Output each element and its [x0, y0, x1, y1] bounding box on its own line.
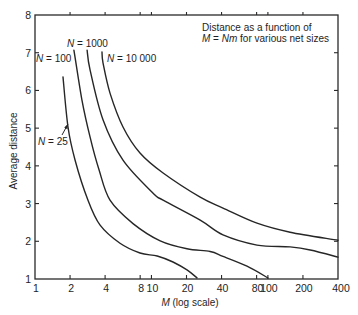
x-axis-title: M (log scale) [161, 297, 218, 308]
annotation-equals: = [210, 33, 221, 44]
y-tick-label: 7 [25, 47, 31, 59]
label-n-10000-value: = 10 000 [114, 53, 156, 64]
x-tick-label: 4 [103, 282, 109, 294]
label-n-100-value: = 100 [43, 53, 72, 64]
label-n-1000-value: = 1000 [74, 38, 108, 49]
label-n-10000: N = 10 000 [107, 53, 157, 64]
x-tick-label: 8 [138, 282, 144, 294]
x-tick-label: 2 [68, 282, 74, 294]
y-tick-label: 6 [25, 84, 31, 96]
label-n-25-value: = 25 [45, 136, 68, 147]
y-tick-label: 3 [25, 198, 31, 210]
chart-background [0, 0, 358, 315]
label-n-1000: N = 1000 [67, 38, 108, 49]
y-tick-label: 5 [25, 122, 31, 134]
x-tick-label: 10 [147, 282, 159, 294]
y-tick-label: 2 [25, 235, 31, 247]
x-tick-label: 400 [332, 282, 350, 294]
x-tick-label: 20 [182, 282, 194, 294]
x-tick-label: 40 [217, 282, 229, 294]
annotation-line-2: M = Nm for various net sizes [202, 33, 329, 44]
label-n-25: N = 25 [38, 136, 68, 147]
annotation-line-1: Distance as a function of [202, 22, 312, 33]
annotation-var-nm: Nm [222, 33, 238, 44]
x-tick-label: 200 [295, 282, 313, 294]
y-tick-label: 4 [25, 160, 31, 172]
x-tick-label: 100 [260, 282, 278, 294]
x-axis-title-rest: (log scale) [170, 297, 219, 308]
annotation-rest: for various net sizes [237, 33, 329, 44]
y-tick-label: 1 [25, 273, 31, 285]
distance-vs-m-chart: 124810204080100200400 12345678 N = 100 N… [0, 0, 358, 315]
y-tick-label: 8 [25, 9, 31, 21]
y-axis-title: Average distance [8, 112, 19, 190]
label-n-100: N = 100 [36, 53, 72, 64]
x-tick-label: 1 [33, 282, 39, 294]
